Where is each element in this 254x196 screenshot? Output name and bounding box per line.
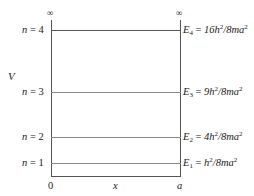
level-line-n1: [51, 163, 181, 164]
left-wall: [51, 20, 52, 177]
origin-label: 0: [48, 180, 53, 192]
box-width-label: a: [177, 180, 182, 192]
energy-label-2: E2 = 4h2/8ma2: [183, 131, 243, 143]
n-label-4: n = 4: [22, 24, 44, 36]
right-wall: [180, 20, 181, 177]
n-label-3: n = 3: [22, 86, 44, 98]
left-infinity-symbol: ∞: [47, 8, 53, 18]
x-axis-label: x: [113, 180, 118, 192]
n-label-1: n = 1: [22, 157, 44, 169]
energy-label-3: E3 = 9h2/8ma2: [183, 86, 243, 98]
box-floor: [51, 176, 181, 177]
level-line-n3: [51, 92, 181, 93]
energy-label-1: E1 = h2/8ma2: [183, 157, 237, 169]
level-line-n2: [51, 137, 181, 138]
right-infinity-symbol: ∞: [176, 8, 182, 18]
level-line-n4: [51, 30, 181, 31]
n-label-2: n = 2: [22, 131, 44, 143]
potential-axis-label: V: [8, 70, 15, 82]
energy-label-4: E4 = 16h2/8ma2: [183, 24, 248, 36]
